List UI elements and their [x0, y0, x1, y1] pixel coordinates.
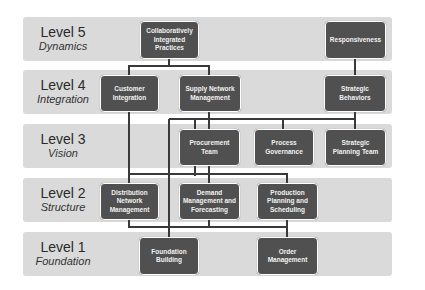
box-strategic-planning-team: Strategic Planning Team — [325, 129, 386, 166]
box-customer-integration: Customer Integration — [100, 75, 159, 112]
box-order-management: Order Management — [257, 237, 318, 275]
box-production-planning-scheduling: Production Planning and Scheduling — [257, 183, 318, 220]
box-procurement-team: Procurement Team — [179, 129, 240, 166]
box-distribution-network-management: Distribution Network Management — [100, 183, 159, 220]
box-demand-management-forecasting: Demand Management and Forecasting — [179, 183, 240, 220]
box-process-governance: Process Governance — [254, 129, 314, 166]
box-supply-network-management: Supply Network Management — [179, 75, 241, 112]
box-foundation-building: Foundation Building — [139, 237, 199, 275]
box-responsiveness: Responsiveness — [325, 21, 386, 59]
box-strategic-behaviors: Strategic Behaviors — [324, 75, 386, 112]
box-collaboratively-integrated-practices: Collaboratively Integrated Practices — [140, 21, 199, 59]
